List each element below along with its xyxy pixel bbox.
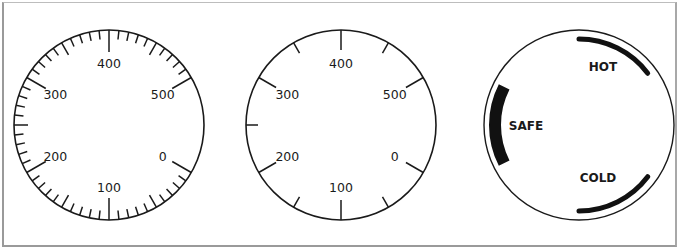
dial-label-100: 100 (97, 180, 121, 195)
dial-label-500: 500 (383, 87, 407, 102)
dials-figure: 0 100 200 300 400 500 0 100 200 300 400 … (0, 0, 681, 252)
dial-label-0: 0 (159, 149, 167, 164)
safe-zone-arc (495, 87, 504, 163)
zone-label-cold: COLD (580, 171, 617, 185)
dial-label-300: 300 (43, 87, 67, 102)
dial-label-200: 200 (43, 149, 67, 164)
dial-label-400: 400 (97, 56, 121, 71)
dial-coarse-scale: 0 100 200 300 400 500 (246, 30, 436, 220)
zone-label-safe: SAFE (509, 119, 543, 133)
zone-label-hot: HOT (589, 60, 618, 74)
dial-label-400: 400 (329, 56, 353, 71)
dial-label-100: 100 (329, 180, 353, 195)
dial-label-500: 500 (151, 87, 175, 102)
dial-label-200: 200 (275, 149, 299, 164)
dial-zone-scale: HOT SAFE COLD (484, 30, 674, 220)
dial-fine-scale: 0 100 200 300 400 500 (14, 30, 204, 220)
dial-label-0: 0 (391, 149, 399, 164)
dial-label-300: 300 (275, 87, 299, 102)
